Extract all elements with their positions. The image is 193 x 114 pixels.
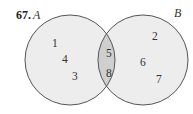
- element-b-2: 6: [140, 56, 146, 68]
- element-a-3: 3: [72, 70, 78, 82]
- element-ab-2: 8: [106, 67, 112, 79]
- set-a-label: A: [32, 8, 41, 22]
- element-ab-1: 5: [106, 47, 112, 59]
- set-b-label: B: [174, 6, 182, 20]
- element-a-2: 4: [62, 53, 68, 65]
- element-a-1: 1: [52, 37, 58, 49]
- element-b-3: 7: [156, 73, 162, 85]
- element-b-1: 2: [152, 30, 158, 42]
- problem-number: 67.: [16, 8, 31, 22]
- venn-diagram: 67. A B 1 4 3 5 8 2 6 7: [0, 0, 193, 114]
